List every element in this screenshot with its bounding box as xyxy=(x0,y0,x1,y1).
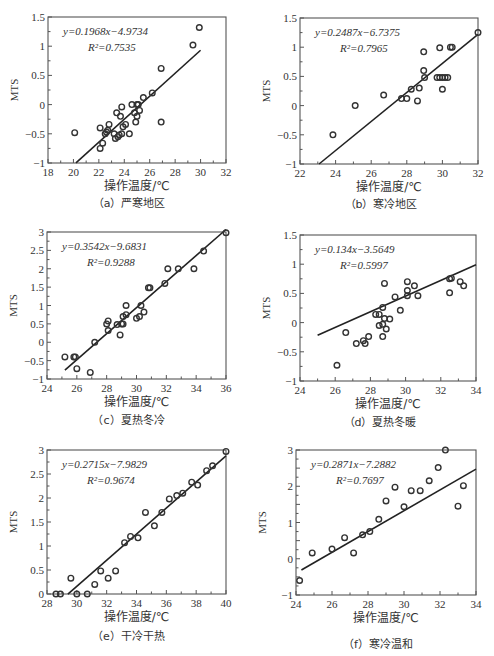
x-tick-label: 28 xyxy=(363,598,375,610)
y-tick-label: −0.5 xyxy=(277,129,297,141)
data-point xyxy=(68,575,74,581)
y-tick-label: −1 xyxy=(281,589,293,601)
y-tick-label: 2 xyxy=(39,492,45,504)
x-tick-label: 26 xyxy=(330,384,342,396)
y-tick-label: 0.5 xyxy=(283,70,297,82)
panel-c: 24262830323436−1−0.500.511.522.53MTS操作温度… xyxy=(7,226,232,427)
y-tick-label: 2 xyxy=(39,263,45,275)
data-point xyxy=(461,483,467,489)
regression-equation: y=0.3542x−9.6831 xyxy=(61,240,147,252)
data-point xyxy=(133,119,139,125)
regression-equation: y=0.2487x−6.7375 xyxy=(314,26,401,38)
data-point xyxy=(309,550,315,556)
y-axis-title: MTS xyxy=(7,294,19,317)
data-point xyxy=(141,309,147,315)
data-point xyxy=(119,104,125,110)
plot-frame xyxy=(47,232,226,379)
y-tick-label: 0 xyxy=(292,100,298,112)
data-point xyxy=(330,132,336,138)
x-tick-label: 24 xyxy=(119,166,131,178)
plot-frame xyxy=(47,450,226,594)
data-point xyxy=(398,308,404,314)
y-tick-label: 1 xyxy=(40,40,46,52)
panel-f: 242628303234−10123MTS操作温度/℃y=0.2871x−7.2… xyxy=(256,444,482,651)
data-point xyxy=(174,493,180,499)
data-point xyxy=(392,294,398,300)
data-point xyxy=(117,332,123,338)
y-tick-label: 0 xyxy=(40,99,46,111)
data-point xyxy=(408,488,414,494)
data-point xyxy=(455,503,461,509)
y-tick-label: 0.5 xyxy=(30,564,44,576)
x-tick-label: 28 xyxy=(170,166,182,178)
data-point xyxy=(197,25,203,31)
panel-a: 1820222426283032−1−0.500.511.5MTS操作温度/℃y… xyxy=(8,11,232,210)
y-tick-label: 2 xyxy=(288,480,294,492)
y-axis-title: MTS xyxy=(8,79,20,102)
y-tick-label: 1.5 xyxy=(30,516,44,528)
data-point xyxy=(334,362,340,368)
panel-caption: （c）夏热冬冷 xyxy=(92,413,164,427)
data-point xyxy=(137,108,143,114)
y-tick-label: 0 xyxy=(39,336,45,348)
data-point xyxy=(351,550,357,556)
data-point xyxy=(143,510,149,516)
x-tick-label: 22 xyxy=(93,166,104,178)
r-squared: R²=0.9674 xyxy=(86,474,135,486)
x-tick-label: 32 xyxy=(473,167,484,179)
data-point xyxy=(167,496,173,502)
x-axis-title: 操作温度/℃ xyxy=(104,178,170,193)
data-point xyxy=(98,568,104,574)
figure-canvas: 1820222426283032−1−0.500.511.5MTS操作温度/℃y… xyxy=(0,0,494,656)
data-point xyxy=(158,66,164,72)
y-tick-label: 1 xyxy=(39,300,45,312)
data-point xyxy=(165,266,171,272)
data-point xyxy=(435,465,441,471)
r-squared: R²=0.5997 xyxy=(339,259,388,271)
data-point xyxy=(376,312,382,318)
x-tick-label: 34 xyxy=(471,598,483,610)
y-tick-label: −0.5 xyxy=(25,128,45,140)
data-point xyxy=(329,546,335,552)
x-axis-title: 操作温度/℃ xyxy=(355,396,421,411)
data-point xyxy=(190,42,196,48)
y-tick-label: 1.5 xyxy=(283,229,297,241)
data-point xyxy=(343,330,349,336)
data-point xyxy=(113,568,119,574)
regression-equation: y=0.1968x−4.9734 xyxy=(62,25,149,37)
data-point xyxy=(105,575,111,581)
x-axis-title: 操作温度/℃ xyxy=(353,610,419,625)
data-point xyxy=(383,498,389,504)
x-tick-label: 40 xyxy=(221,597,233,609)
x-tick-label: 28 xyxy=(365,384,377,396)
y-tick-label: 1 xyxy=(292,258,298,270)
plot-frame xyxy=(48,17,226,163)
panel-d: 242628303234−1−0.500.511.5MTS操作温度/℃y=0.1… xyxy=(260,229,482,429)
x-tick-label: 26 xyxy=(71,382,83,394)
r-squared: R²=0.7697 xyxy=(335,474,384,486)
y-tick-label: −1 xyxy=(32,373,44,385)
data-point xyxy=(74,366,80,372)
data-point xyxy=(447,290,453,296)
x-tick-label: 30 xyxy=(131,382,143,394)
plot-frame xyxy=(296,450,476,595)
x-tick-label: 26 xyxy=(327,598,339,610)
data-point xyxy=(87,370,93,376)
data-point xyxy=(437,45,443,51)
x-tick-label: 38 xyxy=(191,597,203,609)
r-squared: R²=0.7535 xyxy=(87,41,136,53)
data-point xyxy=(297,578,303,584)
data-point xyxy=(366,334,372,340)
data-point xyxy=(342,535,348,541)
y-tick-label: 3 xyxy=(39,226,45,238)
data-point xyxy=(421,68,427,74)
data-point xyxy=(380,334,386,340)
data-point xyxy=(106,122,112,128)
x-tick-label: 24 xyxy=(330,167,342,179)
data-point xyxy=(415,98,421,104)
x-tick-label: 32 xyxy=(435,598,446,610)
data-point xyxy=(426,478,432,484)
data-point xyxy=(62,354,68,360)
data-point xyxy=(415,293,421,299)
data-point xyxy=(127,131,133,137)
